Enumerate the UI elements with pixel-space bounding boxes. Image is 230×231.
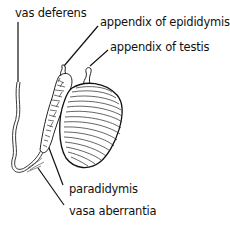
- leader-appendix-epididymis: [64, 26, 98, 66]
- vas-deferens-tube: [12, 82, 44, 172]
- label-vas-deferens: vas deferens: [15, 8, 86, 20]
- label-appendix-of-epididymis: appendix of epididymis: [100, 17, 230, 29]
- testis: [60, 83, 122, 167]
- anatomy-drawing: [0, 0, 230, 231]
- vasa-aberrantia-threads: [27, 158, 44, 172]
- leader-appendix-testis: [90, 50, 108, 66]
- leader-vasa-aberrantia: [38, 168, 64, 205]
- label-appendix-of-testis: appendix of testis: [110, 42, 209, 54]
- label-paradidymis: paradidymis: [69, 184, 138, 196]
- label-vasa-aberrantia: vasa aberrantia: [69, 206, 156, 218]
